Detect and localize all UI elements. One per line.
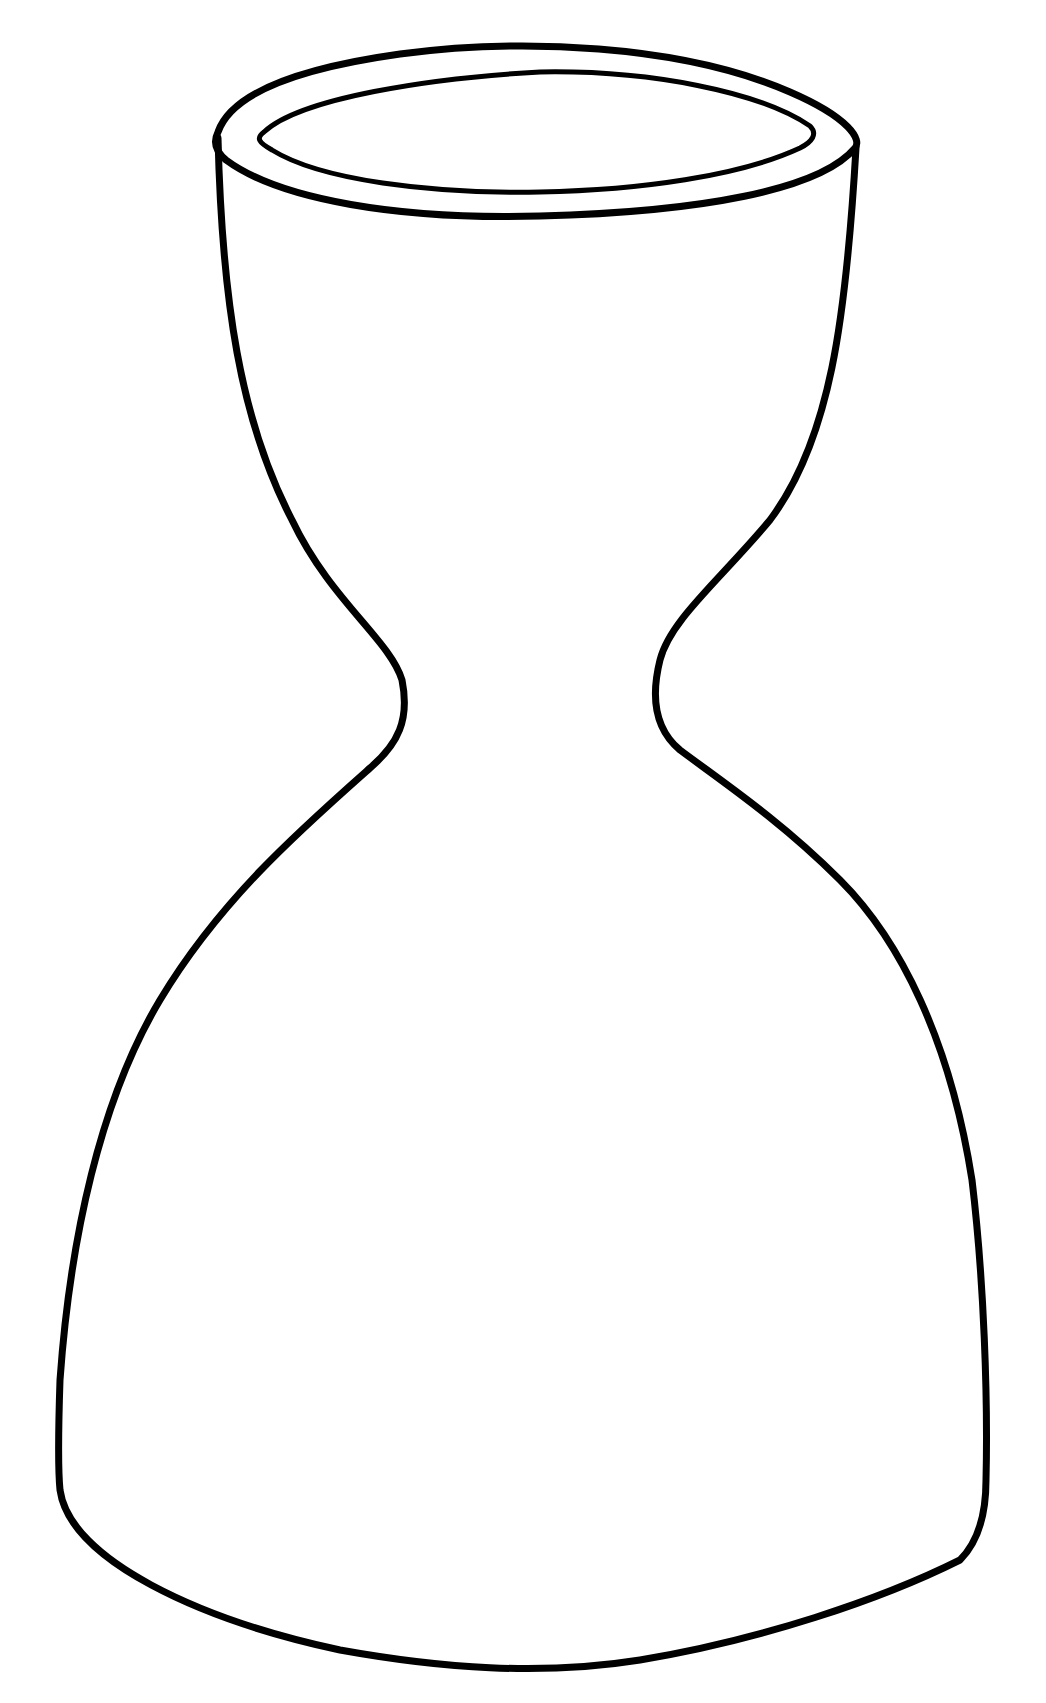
vase-rim-inner (259, 72, 813, 192)
drawing-canvas (0, 0, 1046, 1703)
vase-illustration (0, 0, 1046, 1703)
vase-body-outline (59, 138, 987, 1669)
